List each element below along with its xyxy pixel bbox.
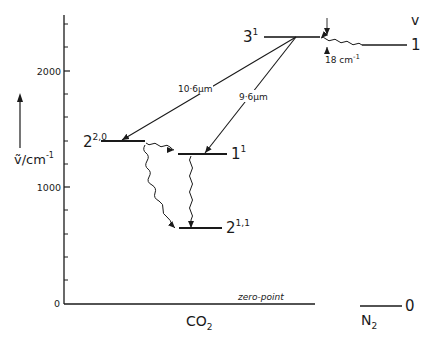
transition-9-6um: 9·6μm (205, 37, 296, 153)
gap-annotation: 18 cm-1 (325, 53, 360, 65)
co2-molecule-label: CO2 (186, 313, 213, 332)
arrowhead-icon (17, 93, 23, 102)
energy-level-diagram: 2000 1000 0 ṽ/cm-1 31 22,0 11 21,1 1 0 v… (0, 0, 430, 342)
co2-level-2-20: 22,0 (83, 132, 145, 151)
n2-v1-label: 1 (411, 36, 421, 54)
nonradiative-1-1-to-2-11 (190, 156, 193, 228)
tick-label-2000: 2000 (37, 66, 61, 77)
y-axis-label: ṽ/cm-1 (14, 93, 54, 167)
transition-10-6um: 10·6μm (122, 37, 296, 140)
n2-level-v1: 1 (362, 36, 421, 54)
co2-level-2-11: 21,1 (179, 218, 250, 237)
nonradiative-2-20-to-2-11 (144, 145, 175, 228)
n2-molecule-label: N2 (361, 312, 377, 331)
level-label-2-11: 21,1 (226, 218, 250, 237)
level-label-1-1: 11 (231, 144, 246, 163)
tick-label-0: 0 (54, 298, 60, 309)
y-axis: 2000 1000 0 (37, 15, 315, 309)
co2-level-1-1: 11 (178, 144, 246, 163)
nonradiative-2-20-to-1-1 (146, 143, 174, 150)
energy-transfer-n2-co2: 18 cm-1 (321, 18, 362, 65)
y-axis-label-text: ṽ/cm-1 (14, 151, 54, 167)
co2-level-3-1: 31 (243, 27, 320, 46)
wavelength-label-10-6: 10·6μm (178, 84, 213, 94)
level-label-3-1: 31 (243, 27, 258, 46)
level-label-2-20: 22,0 (83, 132, 107, 151)
zero-point-label: zero-point (237, 292, 284, 302)
wavelength-label-9-6: 9·6μm (239, 92, 268, 102)
vibrational-quantum-header: v (411, 12, 419, 28)
tick-label-1000: 1000 (37, 182, 61, 193)
n2-v0-label: 0 (405, 297, 415, 315)
